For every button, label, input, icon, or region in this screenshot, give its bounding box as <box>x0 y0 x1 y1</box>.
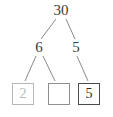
answer-box-3-value: 5 <box>86 87 93 101</box>
node-left-factor: 6 <box>35 40 43 55</box>
node-right-factor: 5 <box>72 40 80 55</box>
edge-left-to-box-1 <box>25 56 36 81</box>
node-root-value: 30 <box>54 3 69 18</box>
edge-right-to-box-3 <box>77 56 88 81</box>
edge-root-to-right <box>66 19 75 39</box>
answer-box-1-value: 2 <box>20 87 27 101</box>
edge-root-to-left <box>41 19 56 39</box>
answer-box-2[interactable] <box>48 83 70 105</box>
factor-tree-diagram: 30 6 5 2 5 <box>0 0 113 117</box>
answer-box-3[interactable]: 5 <box>78 83 100 105</box>
edge-left-to-box-2 <box>43 56 55 81</box>
answer-box-1[interactable]: 2 <box>12 83 34 105</box>
